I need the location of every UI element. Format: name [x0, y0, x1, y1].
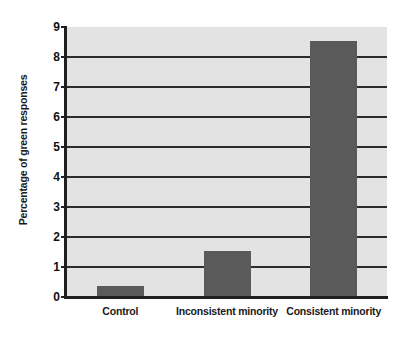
y-axis-tick-labels: 0123456789	[44, 27, 60, 297]
x-category-label: Inconsistent minority	[176, 305, 278, 317]
bar	[204, 251, 251, 298]
y-tick-label: 5	[44, 141, 60, 153]
y-tick-label: 1	[44, 261, 60, 273]
y-tick-label: 6	[44, 111, 60, 123]
x-axis-line	[64, 296, 388, 299]
y-axis-title: Percentage of green responses	[0, 0, 46, 300]
bar	[310, 41, 357, 298]
y-axis-title-text: Percentage of green responses	[17, 75, 29, 226]
y-tick-label: 3	[44, 201, 60, 213]
x-axis-category-labels: ControlInconsistent minorityConsistent m…	[67, 305, 387, 325]
bar-chart-figure: Percentage of green responses 0123456789…	[0, 0, 408, 342]
x-category-label: Consistent minority	[286, 305, 381, 317]
y-tick-label: 0	[44, 291, 60, 303]
y-tick-label: 9	[44, 21, 60, 33]
plot-area	[67, 27, 387, 297]
y-tick-label: 7	[44, 81, 60, 93]
y-tick-label: 4	[44, 171, 60, 183]
x-category-label: Control	[102, 305, 138, 317]
y-tick-label: 2	[44, 231, 60, 243]
y-tick-label: 8	[44, 51, 60, 63]
